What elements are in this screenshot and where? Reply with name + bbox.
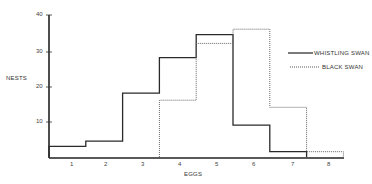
x-tick-4: 4 — [178, 161, 181, 167]
series-whistling-swan — [49, 35, 307, 157]
y-tick-30: 30 — [36, 48, 43, 54]
legend-black-label: BLACK SWAN — [322, 64, 363, 70]
y-axis-label: NESTS — [6, 75, 27, 81]
y-tick-40: 40 — [36, 11, 43, 17]
x-tick-7: 7 — [291, 161, 294, 167]
x-tick-3: 3 — [141, 161, 144, 167]
x-tick-2: 2 — [104, 161, 107, 167]
series-black-swan — [159, 29, 343, 157]
x-tick-5: 5 — [215, 161, 218, 167]
x-tick-1: 1 — [70, 161, 73, 167]
y-tick-10: 10 — [36, 118, 43, 124]
chart-plot — [0, 0, 372, 184]
x-tick-6: 6 — [252, 161, 255, 167]
legend-whistling-label: WHISTLING SWAN — [314, 50, 370, 56]
x-axis-label: EGGS — [184, 171, 202, 177]
x-tick-8: 8 — [327, 161, 330, 167]
y-tick-20: 20 — [36, 83, 43, 89]
